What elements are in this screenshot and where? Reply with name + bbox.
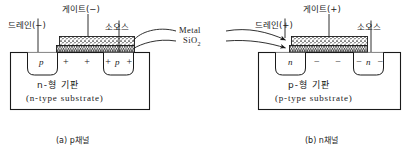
panel-b-source-label: 소오스 [357,23,381,32]
metal-label-text: Metal [179,25,201,35]
panel-b-drain-label: 드레인(+) [255,21,293,30]
oxide-label-text: SiO [183,35,197,45]
panel-a-gate-label: 게이트(−) [62,5,100,14]
panel-a-source-label: 소오스 [105,23,129,32]
panel-a-channel-carriers: + + + + [63,57,139,67]
panel-b-caption: (b) n채널 [305,137,338,145]
panel-b-channel-carriers: − − − − [314,57,390,67]
panel-a-drain-label: 드레인(−) [8,21,46,30]
panel-b-well-left-label: n [288,58,293,67]
panel-b-substrate-en: (p-type substrate) [275,94,353,103]
panel-a-substrate-en: (n-type substrate) [26,94,104,103]
panel-a-well-left-label: p [39,58,44,67]
metal-label: Metal [179,26,201,35]
panel-a-substrate-ko: n-형 기판 [37,81,79,90]
mosfet-cross-section-figure: 드레인(−) 게이트(−) 소오스 p p + + + + n-형 기판 (n-… [0,0,411,157]
oxide-label-sub: 2 [197,41,200,47]
panel-a-caption: (a) p채널 [56,137,89,145]
oxide-label: SiO2 [183,36,201,47]
panel-b-substrate-ko: p-형 기판 [288,81,330,90]
figure-drawing [0,0,411,157]
panel-b-gate-label: 게이트(+) [303,5,341,14]
